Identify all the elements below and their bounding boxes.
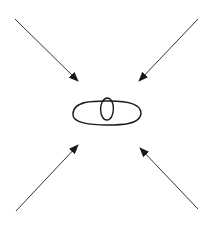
arrow-bottom-left-icon: [16, 145, 78, 211]
outer-ellipse-shape: [73, 101, 141, 125]
arrow-bottom-right-icon: [140, 148, 198, 209]
arrow-top-right-icon: [139, 19, 198, 81]
center-shape: [73, 98, 141, 125]
arrows-group: [15, 19, 198, 211]
arrow-top-left-icon: [15, 19, 78, 81]
converging-arrows-diagram: [0, 0, 214, 226]
diagram-canvas: [0, 0, 214, 226]
